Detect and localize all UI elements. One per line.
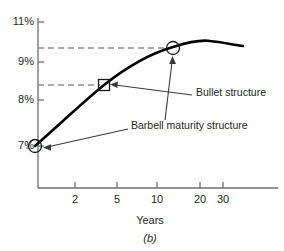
figure-caption: (b)	[125, 233, 175, 244]
x-tick-label-5: 5	[105, 194, 129, 205]
x-tick-label-30: 30	[211, 194, 235, 205]
x-axis-ticks	[75, 182, 223, 188]
barbell-long-leader-line	[165, 56, 176, 120]
x-tick-label-20: 20	[188, 194, 212, 205]
bullet-structure-annotation-label: Bullet structure	[196, 87, 266, 98]
y-tick-label-9: 9%	[2, 56, 34, 67]
y-tick-label-8: 8%	[2, 94, 34, 105]
y-tick-label-7: 7%	[2, 140, 34, 151]
y-axis-ticks	[38, 22, 44, 146]
y-tick-label-11: 11%	[2, 16, 34, 27]
bullet-leader-line	[110, 82, 192, 96]
figure-container: 11% 9% 8% 7% 2 5 10 20 30 Years (b) Bull…	[0, 0, 284, 251]
barbell-maturity-structure-annotation-label: Barbell maturity structure	[131, 120, 248, 131]
x-axis-title: Years	[120, 215, 180, 226]
x-tick-label-10: 10	[145, 194, 169, 205]
x-tick-label-2: 2	[63, 194, 87, 205]
barbell-leader-line	[43, 129, 128, 151]
